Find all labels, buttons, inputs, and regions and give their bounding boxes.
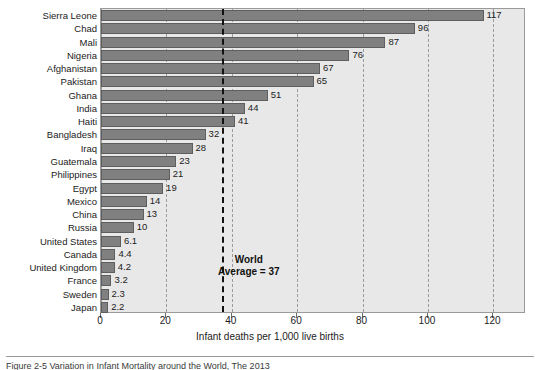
x-tick-label-20: 20 bbox=[160, 315, 171, 326]
category-label: Bangladesh bbox=[0, 129, 97, 140]
category-label: Ghana bbox=[0, 90, 97, 101]
category-label: Japan bbox=[0, 302, 97, 313]
world-average-label-line1: World bbox=[218, 254, 280, 266]
figure-caption: Figure 2-5 Variation in Infant Mortality… bbox=[6, 361, 534, 370]
category-axis-labels: Sierra LeoneChadMaliNigeriaAfghanistanPa… bbox=[0, 8, 97, 313]
category-label: Mali bbox=[0, 37, 97, 48]
category-label: Sierra Leone bbox=[0, 10, 97, 21]
x-tick-label-60: 60 bbox=[291, 315, 302, 326]
category-label: Philippines bbox=[0, 169, 97, 180]
x-tick-label-100: 100 bbox=[419, 315, 436, 326]
reference-line-layer: WorldAverage = 37 bbox=[101, 9, 524, 312]
category-label: Nigeria bbox=[0, 50, 97, 61]
category-label: United States bbox=[0, 236, 97, 247]
category-label: India bbox=[0, 103, 97, 114]
caption-divider bbox=[6, 356, 534, 357]
infant-mortality-figure: Sierra LeoneChadMaliNigeriaAfghanistanPa… bbox=[0, 0, 540, 370]
category-label: Egypt bbox=[0, 183, 97, 194]
category-label: Chad bbox=[0, 23, 97, 34]
category-label: China bbox=[0, 209, 97, 220]
category-label: Iraq bbox=[0, 143, 97, 154]
category-label: Haiti bbox=[0, 116, 97, 127]
category-label: France bbox=[0, 275, 97, 286]
x-axis-label: Infant deaths per 1,000 live births bbox=[0, 331, 540, 342]
category-label: Russia bbox=[0, 222, 97, 233]
category-label: Pakistan bbox=[0, 76, 97, 87]
category-label: Afghanistan bbox=[0, 63, 97, 74]
plot-area: 117968776676551444132282321191413106.14.… bbox=[100, 8, 525, 313]
category-label: Mexico bbox=[0, 196, 97, 207]
x-tick-label-80: 80 bbox=[356, 315, 367, 326]
x-tick-label-40: 40 bbox=[225, 315, 236, 326]
world-average-label-line2: Average = 37 bbox=[218, 266, 280, 278]
x-tick-label-120: 120 bbox=[484, 315, 501, 326]
category-label: Guatemala bbox=[0, 156, 97, 167]
x-tick-label-0: 0 bbox=[97, 315, 103, 326]
category-label: Sweden bbox=[0, 289, 97, 300]
category-label: United Kingdom bbox=[0, 262, 97, 273]
world-average-annotation: WorldAverage = 37 bbox=[218, 254, 280, 278]
category-label: Canada bbox=[0, 249, 97, 260]
